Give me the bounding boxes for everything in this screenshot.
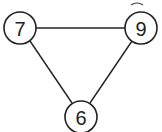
node-6: 6 xyxy=(65,101,97,132)
edge-7-6 xyxy=(30,41,72,103)
edge-9-6 xyxy=(90,41,132,103)
node-label: 6 xyxy=(75,107,86,129)
cropped-glyph xyxy=(131,3,143,5)
node-label: 7 xyxy=(14,18,25,40)
node-7: 7 xyxy=(4,12,36,44)
node-9: 9 xyxy=(125,12,157,44)
node-label: 9 xyxy=(135,18,146,40)
graph-diagram: 7 9 6 xyxy=(0,0,162,132)
